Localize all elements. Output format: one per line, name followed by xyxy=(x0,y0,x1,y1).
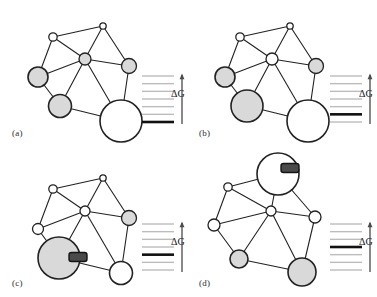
ladder-container-d xyxy=(328,220,377,278)
protein-network-graph-b xyxy=(195,4,335,144)
ladder-container-c xyxy=(140,220,196,278)
node-upper-left xyxy=(49,33,57,41)
graph-edge xyxy=(271,211,315,217)
graph-container-b xyxy=(195,4,335,144)
energy-level-ladder-c xyxy=(140,220,196,278)
graph-edge xyxy=(53,26,103,37)
node-right xyxy=(309,211,321,223)
delta-g-label: ΔG xyxy=(359,236,373,247)
graph-edge xyxy=(53,189,85,211)
node-lower-left xyxy=(49,95,72,118)
graph-nodes xyxy=(28,23,142,142)
node-big-bottom xyxy=(287,100,329,142)
node-lower-left xyxy=(230,250,248,268)
panel-d: ΔG(d) xyxy=(189,148,377,296)
figure-panels-container: ΔG(a)ΔG(b)ΔG(c)ΔG(d) xyxy=(0,0,377,297)
node-top xyxy=(100,23,106,29)
panel-b: ΔG(b) xyxy=(189,0,377,148)
ladder-container-a xyxy=(140,72,196,130)
protein-network-graph-c xyxy=(8,156,148,296)
graph-container-c xyxy=(8,156,148,296)
protein-network-graph-a xyxy=(8,4,148,144)
node-center xyxy=(80,206,90,216)
energy-level-ladder-b xyxy=(328,72,377,130)
node-right xyxy=(122,59,137,74)
node-left xyxy=(215,67,235,87)
node-right xyxy=(309,59,324,74)
node-upper-left xyxy=(49,185,57,193)
panel-c: ΔG(c) xyxy=(0,148,188,296)
graph-edge xyxy=(38,211,85,229)
delta-g-arrow-head xyxy=(180,74,185,80)
node-top xyxy=(287,23,293,29)
graph-nodes xyxy=(215,23,329,142)
node-lower-left xyxy=(231,90,263,122)
graph-edge xyxy=(53,178,103,189)
graph-edge xyxy=(240,26,290,37)
node-left xyxy=(208,219,220,231)
ladder-container-b xyxy=(328,72,377,130)
delta-g-label: ΔG xyxy=(359,88,373,99)
delta-g-arrow-head xyxy=(368,74,373,80)
ligand-marker xyxy=(281,164,299,173)
node-big-bottom xyxy=(288,258,316,286)
delta-g-arrow-head xyxy=(368,222,373,228)
node-left xyxy=(33,224,44,235)
node-big-bottom xyxy=(100,100,142,142)
node-big-bottom xyxy=(110,262,133,285)
panel-label-c: (c) xyxy=(12,278,23,288)
node-top xyxy=(257,153,299,195)
graph-container-a xyxy=(8,4,148,144)
node-left xyxy=(28,67,48,87)
panel-label-d: (d) xyxy=(199,278,210,288)
node-right xyxy=(122,211,137,226)
graph-nodes xyxy=(208,153,321,286)
panel-a: ΔG(a) xyxy=(0,0,188,148)
delta-g-label: ΔG xyxy=(171,236,185,247)
node-top xyxy=(100,175,106,181)
energy-level-ladder-a xyxy=(140,72,196,130)
protein-network-graph-d xyxy=(195,152,335,292)
node-upper-left xyxy=(224,183,232,191)
panel-label-a: (a) xyxy=(12,128,23,138)
delta-g-label: ΔG xyxy=(171,88,185,99)
energy-level-ladder-d xyxy=(328,220,377,278)
node-upper-left xyxy=(236,33,244,41)
panel-label-b: (b) xyxy=(199,128,210,138)
graph-container-d xyxy=(195,152,335,292)
graph-edge xyxy=(38,189,53,229)
node-center xyxy=(266,53,278,65)
node-center xyxy=(266,206,276,216)
graph-nodes xyxy=(33,175,137,285)
ligand-marker xyxy=(69,253,87,262)
node-center xyxy=(79,53,91,65)
delta-g-arrow-head xyxy=(180,222,185,228)
